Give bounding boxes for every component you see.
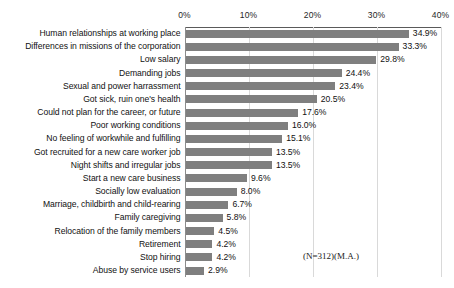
x-axis-tick-40: 40% — [421, 10, 454, 21]
bar — [186, 56, 377, 64]
bar-value-label: 4.2% — [216, 251, 236, 264]
bar — [186, 30, 409, 38]
bar — [186, 43, 399, 51]
category-label: Could not plan for the career, or future — [1, 106, 181, 119]
category-label: Abuse by service users — [1, 264, 181, 277]
bar — [186, 174, 247, 182]
bar-row: Poor working conditions16.0% — [0, 119, 448, 132]
category-label: Family caregiving — [1, 211, 181, 224]
bar-row: Stop hiring4.2% — [0, 251, 448, 264]
bar-row: Got sick, ruin one's health20.5% — [0, 93, 448, 106]
bar-value-label: 29.8% — [380, 53, 404, 66]
bar — [186, 148, 272, 156]
bar-row: Family caregiving5.8% — [0, 211, 448, 224]
category-label: No feeling of workwhile and fulfilling — [1, 132, 181, 145]
x-axis-tick-0: 0% — [165, 10, 205, 21]
bar-value-label: 20.5% — [321, 93, 345, 106]
x-axis-tick-10: 10% — [229, 10, 269, 21]
bar-value-label: 5.8% — [227, 211, 247, 224]
category-label: Demanding jobs — [1, 67, 181, 80]
bar-value-label: 4.5% — [218, 225, 238, 238]
bar-value-label: 6.7% — [232, 198, 252, 211]
bar-value-label: 13.5% — [276, 159, 300, 172]
bar — [186, 267, 205, 275]
bar — [186, 227, 215, 235]
bar — [186, 135, 283, 143]
bar — [186, 82, 336, 90]
bar-row: Night shifts and irregular jobs13.5% — [0, 159, 448, 172]
bar — [186, 69, 342, 77]
x-axis-tick-30: 30% — [357, 10, 397, 21]
category-label: Night shifts and irregular jobs — [1, 159, 181, 172]
category-label: Low salary — [1, 53, 181, 66]
bar-value-label: 2.9% — [208, 264, 228, 277]
bar-value-label: 8.0% — [241, 185, 261, 198]
x-axis-tick-labels: 0%10%20%30%40% — [0, 10, 448, 22]
bar-value-label: 15.1% — [286, 132, 310, 145]
bar — [186, 240, 213, 248]
bar-row: No feeling of workwhile and fulfilling15… — [0, 132, 448, 145]
bar-row: Abuse by service users2.9% — [0, 264, 448, 277]
category-label: Stop hiring — [1, 251, 181, 264]
bar — [186, 109, 299, 117]
bar-value-label: 24.4% — [346, 67, 370, 80]
category-label: Differences in missions of the corporati… — [1, 40, 181, 53]
bar — [186, 201, 229, 209]
bar-row: Human relationships at working place34.9… — [0, 27, 448, 40]
category-label: Got recruited for a new care worker job — [1, 146, 181, 159]
bar — [186, 253, 213, 261]
category-label: Human relationships at working place — [1, 27, 181, 40]
bar-row: Marriage, childbirth and child-rearing6.… — [0, 198, 448, 211]
x-axis-tick-20: 20% — [293, 10, 333, 21]
bar — [186, 95, 317, 103]
sample-size-annotation: (N=312)(M.A.) — [303, 250, 359, 262]
bar-value-label: 16.0% — [292, 119, 316, 132]
bar-row: Got recruited for a new care worker job1… — [0, 146, 448, 159]
category-label: Marriage, childbirth and child-rearing — [1, 198, 181, 211]
bar-row: Relocation of the family members4.5% — [0, 225, 448, 238]
bar-row: Demanding jobs24.4% — [0, 67, 448, 80]
bar — [186, 214, 223, 222]
category-label: Socially low evaluation — [1, 185, 181, 198]
bar-row: Start a new care business9.6% — [0, 172, 448, 185]
bar-row: Differences in missions of the corporati… — [0, 40, 448, 53]
bar — [186, 188, 237, 196]
bar-row: Retirement4.2% — [0, 238, 448, 251]
bar-row: Could not plan for the career, or future… — [0, 106, 448, 119]
bar-value-label: 9.6% — [251, 172, 271, 185]
category-label: Relocation of the family members — [1, 225, 181, 238]
category-label: Start a new care business — [1, 172, 181, 185]
bar — [186, 161, 272, 169]
bar-value-label: 13.5% — [276, 146, 300, 159]
bar-row: Socially low evaluation8.0% — [0, 185, 448, 198]
bar-value-label: 4.2% — [216, 238, 236, 251]
bar-row: Sexual and power harrassment23.4% — [0, 80, 448, 93]
bar-rows: Human relationships at working place34.9… — [0, 27, 448, 277]
bar-value-label: 33.3% — [403, 40, 427, 53]
bar-value-label: 34.9% — [413, 27, 437, 40]
bar — [186, 122, 288, 130]
category-label: Got sick, ruin one's health — [1, 93, 181, 106]
bar-value-label: 23.4% — [339, 80, 363, 93]
category-label: Sexual and power harrassment — [1, 80, 181, 93]
bar-row: Low salary29.8% — [0, 53, 448, 66]
category-label: Retirement — [1, 238, 181, 251]
category-label: Poor working conditions — [1, 119, 181, 132]
bar-value-label: 17.6% — [302, 106, 326, 119]
